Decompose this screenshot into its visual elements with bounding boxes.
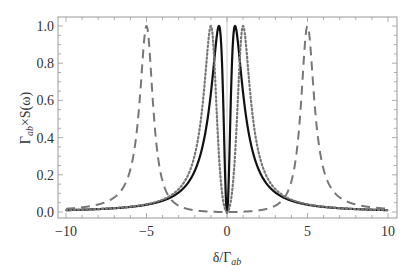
y-tick-label: 0.6 bbox=[37, 93, 55, 108]
x-tick-label: 10 bbox=[381, 224, 395, 239]
y-tick-label: 0.4 bbox=[37, 131, 55, 146]
x-tick-label: 0 bbox=[224, 224, 231, 239]
y-tick-label: 0.2 bbox=[37, 168, 55, 183]
y-axis-label: Γab×S(ω) bbox=[18, 92, 35, 145]
x-tick-label: −5 bbox=[139, 224, 154, 239]
x-tick-label: 5 bbox=[304, 224, 311, 239]
x-axis-label: δ/Γab bbox=[213, 250, 242, 267]
y-tick-label: 0.0 bbox=[37, 205, 55, 220]
x-tick-label: −10 bbox=[55, 224, 77, 239]
y-tick-label: 1.0 bbox=[37, 19, 55, 34]
chart: −10−505100.00.20.40.60.81.0 δ/Γab Γab×S(… bbox=[0, 0, 412, 274]
y-tick-label: 0.8 bbox=[37, 56, 55, 71]
